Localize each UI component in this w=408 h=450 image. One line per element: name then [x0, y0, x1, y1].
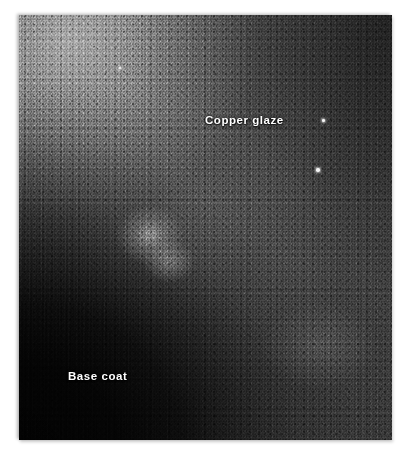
annotation-copper-glaze: Copper glaze — [205, 114, 284, 126]
speck-lower-icon — [316, 168, 320, 172]
micrograph-image: Copper glaze Base coat — [19, 15, 392, 440]
speck-faint-icon — [119, 67, 121, 69]
speck-upper-icon — [322, 119, 325, 122]
figure-root: Copper glaze Base coat — [0, 0, 408, 450]
annotation-base-coat: Base coat — [68, 370, 127, 382]
